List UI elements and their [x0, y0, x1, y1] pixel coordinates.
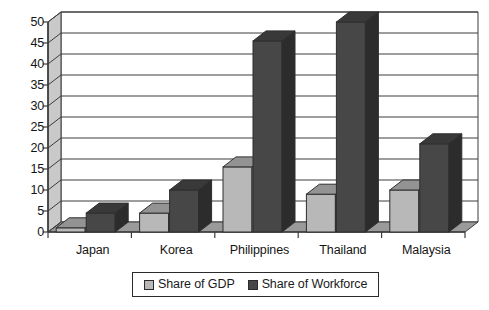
legend-item-share-of-gdp: Share of GDP [144, 278, 235, 291]
bar-front-face [56, 228, 85, 232]
legend-item-share-of-workforce: Share of Workforce [248, 278, 368, 291]
y-axis-label-45: 45 [14, 37, 44, 50]
bar-column [253, 31, 295, 232]
legend-swatch-share-of-workforce [248, 280, 258, 290]
legend-label-share-of-gdp: Share of GDP [158, 278, 235, 291]
bar-front-face [336, 22, 365, 232]
y-axis-label-5: 5 [14, 205, 44, 218]
bar-side-face [365, 12, 378, 232]
bar-front-face [140, 213, 169, 232]
x-axis-label-thailand: Thailand [319, 244, 366, 257]
x-axis-label-malaysia: Malaysia [402, 244, 451, 257]
y-axis-label-20: 20 [14, 142, 44, 155]
chart-legend: Share of GDP Share of Workforce [132, 272, 379, 297]
bar-front-face [253, 41, 282, 232]
bar-column [420, 134, 462, 232]
y-axis-label-35: 35 [14, 79, 44, 92]
bar-column [336, 12, 378, 232]
y-axis-label-25: 25 [14, 121, 44, 134]
plot-area [0, 0, 489, 310]
y-axis-tick-labels: 50454035302520151050 [14, 0, 44, 310]
y-axis-label-15: 15 [14, 163, 44, 176]
y-axis-label-50: 50 [14, 16, 44, 29]
bar-front-face [170, 190, 199, 232]
bar-side-face [282, 31, 295, 232]
bar-chart: 50454035302520151050 JapanKoreaPhilippin… [0, 0, 489, 310]
y-axis-label-10: 10 [14, 184, 44, 197]
bar-front-face [306, 194, 335, 232]
bar-front-face [86, 213, 115, 232]
legend-label-share-of-workforce: Share of Workforce [262, 278, 368, 291]
x-axis-label-korea: Korea [160, 244, 193, 257]
x-axis-label-japan: Japan [76, 244, 110, 257]
x-axis-label-philippines: Philippines [230, 244, 289, 257]
legend-swatch-share-of-gdp [144, 280, 154, 290]
y-axis-label-30: 30 [14, 100, 44, 113]
y-axis-label-40: 40 [14, 58, 44, 71]
y-axis-label-0: 0 [14, 226, 44, 239]
bar-column [170, 180, 212, 232]
bar-side-face [449, 134, 462, 232]
bar-front-face [223, 167, 252, 232]
bar-front-face [420, 144, 449, 232]
bar-front-face [390, 190, 419, 232]
